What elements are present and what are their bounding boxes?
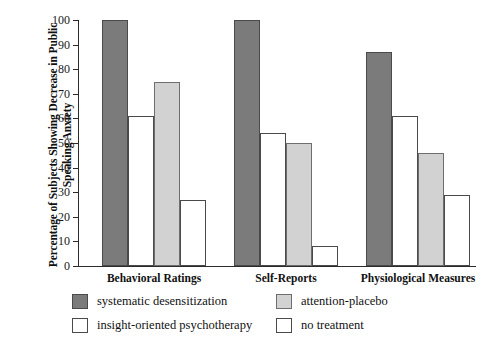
chart-legend: systematic desensitizationattention-plac…: [72, 292, 432, 338]
y-tick-mark: [73, 45, 78, 46]
bar-chart-figure: Percentage of Subjects Showing Decrease …: [0, 0, 491, 346]
legend-item: no treatment: [276, 316, 364, 334]
bar: [102, 20, 128, 266]
legend-label: systematic desensitization: [97, 294, 227, 309]
legend-label: no treatment: [301, 318, 364, 333]
bar-group: [366, 20, 470, 266]
y-tick-label: 40: [58, 160, 70, 175]
y-tick-label: 60: [58, 111, 70, 126]
x-axis-line: [78, 266, 476, 267]
y-tick-mark: [73, 266, 78, 267]
y-tick-label: 10: [58, 234, 70, 249]
bar: [180, 200, 206, 266]
legend-swatch-icon: [72, 294, 88, 309]
y-tick-label: 70: [58, 86, 70, 101]
y-tick-label: 80: [58, 62, 70, 77]
y-tick-mark: [73, 143, 78, 144]
y-tick-mark: [73, 69, 78, 70]
legend-item: systematic desensitization: [72, 292, 227, 310]
y-axis-line: [78, 20, 79, 267]
y-tick-label: 50: [58, 136, 70, 151]
legend-swatch-icon: [72, 318, 88, 333]
bar: [154, 82, 180, 267]
y-tick-mark: [73, 217, 78, 218]
y-tick-label: 100: [52, 13, 70, 28]
bar-group: [234, 20, 338, 266]
bar: [234, 20, 260, 266]
y-tick-label: 90: [58, 37, 70, 52]
y-tick-label: 20: [58, 209, 70, 224]
bar: [418, 153, 444, 266]
legend-label: insight-oriented psychotherapy: [97, 318, 252, 333]
legend-item: attention-placebo: [276, 292, 388, 310]
y-tick-mark: [73, 168, 78, 169]
legend-swatch-icon: [276, 318, 292, 333]
bar: [366, 52, 392, 266]
y-axis-title-container: Percentage of Subjects Showing Decrease …: [0, 0, 52, 280]
x-axis-category-label: Physiological Measures: [328, 272, 491, 284]
y-tick-label: 30: [58, 185, 70, 200]
bar-group: [102, 20, 206, 266]
y-tick-mark: [73, 94, 78, 95]
bar: [260, 133, 286, 266]
y-tick-mark: [73, 192, 78, 193]
bar: [312, 246, 338, 266]
y-tick-mark: [73, 241, 78, 242]
y-tick-mark: [73, 20, 78, 21]
bar: [286, 143, 312, 266]
legend-item: insight-oriented psychotherapy: [72, 316, 252, 334]
bar: [392, 116, 418, 266]
y-tick-mark: [73, 118, 78, 119]
plot-area: 0102030405060708090100 Behavioral Rating…: [78, 20, 476, 267]
legend-label: attention-placebo: [301, 294, 388, 309]
legend-swatch-icon: [276, 294, 292, 309]
bar: [444, 195, 470, 266]
bar: [128, 116, 154, 266]
